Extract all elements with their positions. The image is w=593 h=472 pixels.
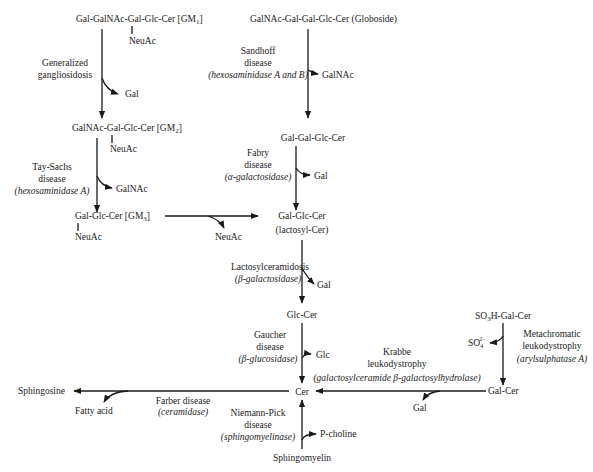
release-arrow — [302, 434, 316, 440]
svg-text:(hexosaminidase A and B): (hexosaminidase A and B) — [208, 70, 308, 81]
disease-niemann-pick: Niemann-Pick disease (sphingomyelinase) — [221, 408, 295, 443]
svg-text:disease: disease — [244, 420, 271, 430]
svg-text:Gal-Glc-Cer [GM3]: Gal-Glc-Cer [GM3] — [75, 211, 150, 223]
compound-gm2: GalNAc-Gal-Glc-Cer [GM2] NeuAc — [72, 123, 182, 154]
svg-text:(galactosylceramide β-galactos: (galactosylceramide β-galactosylhydrolas… — [313, 373, 480, 384]
product-gal: Gal — [413, 403, 427, 413]
svg-text:Gal-Glc-Cer: Gal-Glc-Cer — [278, 211, 326, 221]
svg-text:Niemann-Pick: Niemann-Pick — [231, 408, 286, 418]
release-arrow — [302, 354, 311, 358]
release-arrow — [208, 216, 224, 228]
release-arrow — [296, 168, 310, 175]
svg-text:disease: disease — [38, 174, 65, 184]
disease-fabry: Fabry disease (α-galactosidase) — [225, 148, 292, 183]
product-galnac: GalNAc — [116, 184, 148, 194]
svg-text:disease: disease — [244, 58, 271, 68]
svg-text:Gaucher: Gaucher — [254, 330, 287, 340]
product-glc: Glc — [316, 350, 330, 360]
neuac-branch: NeuAc — [110, 144, 137, 154]
disease-lactosylceramidosis: Lactosylceramidosis (β-galactosidase) — [231, 262, 309, 285]
release-arrow — [423, 391, 440, 400]
svg-text:Farber disease: Farber disease — [156, 396, 211, 406]
release-arrow — [104, 391, 128, 402]
compound-sulfatide: SO3H-Gal-Cer — [475, 311, 532, 323]
product-gal: Gal — [314, 171, 328, 181]
svg-text:leukodystrophy: leukodystrophy — [522, 341, 581, 351]
svg-text:(α-galactosidase): (α-galactosidase) — [225, 172, 292, 183]
svg-text:Gal-GalNAc-Gal-Glc-Cer [GM1]: Gal-GalNAc-Gal-Glc-Cer [GM1] — [76, 14, 203, 26]
svg-text:gangliosidosis: gangliosidosis — [38, 70, 93, 80]
release-arrow — [97, 176, 112, 188]
compound-trihexosylceramide: Gal-Gal-Glc-Cer — [281, 133, 346, 143]
svg-text:(β-galactosidase): (β-galactosidase) — [235, 274, 301, 285]
svg-text:(arylsulphatase A): (arylsulphatase A) — [517, 354, 587, 365]
svg-text:disease: disease — [244, 160, 271, 170]
disease-gaucher: Gaucher disease (β-glucosidase) — [238, 330, 297, 365]
product-galnac: GalNAc — [322, 70, 354, 80]
svg-text:disease: disease — [256, 342, 283, 352]
compound-gm3: Gal-Glc-Cer [GM3] NeuAc — [75, 211, 150, 242]
svg-text:(sphingomyelinase): (sphingomyelinase) — [221, 432, 295, 443]
compound-glucosylceramide: Glc-Cer — [287, 310, 318, 320]
product-gal: Gal — [317, 280, 331, 290]
neuac-branch: NeuAc — [75, 232, 102, 242]
release-arrow — [490, 336, 503, 343]
compound-galactosylceramide: Gal-Cer — [488, 386, 519, 396]
svg-text:(ceramidase): (ceramidase) — [158, 407, 208, 418]
product-fatty-acid: Fatty acid — [75, 406, 113, 416]
svg-text:Fabry: Fabry — [247, 148, 269, 158]
release-arrow — [308, 70, 318, 74]
svg-text:Lactosylceramidosis: Lactosylceramidosis — [231, 262, 309, 272]
svg-text:(hexosaminidase A): (hexosaminidase A) — [14, 186, 89, 197]
product-neuac: NeuAc — [215, 232, 242, 242]
compound-sphingosine: Sphingosine — [18, 386, 65, 396]
product-p-choline: P-choline — [320, 429, 356, 439]
svg-text:Sandhoff: Sandhoff — [241, 46, 276, 56]
svg-text:leukodystrophy: leukodystrophy — [367, 359, 426, 369]
svg-text:Krabbe: Krabbe — [383, 347, 411, 357]
release-arrow — [102, 78, 118, 94]
svg-text:Generalized: Generalized — [42, 58, 88, 68]
compound-globoside: GalNAc-Gal-Gal-Glc-Cer (Globoside) — [250, 14, 397, 25]
compound-sphingomyelin: Sphingomyelin — [273, 453, 331, 463]
disease-sandhoff: Sandhoff disease (hexosaminidase A and B… — [208, 46, 308, 81]
compound-gm1: Gal-GalNAc-Gal-Glc-Cer [GM1] NeuAc — [76, 14, 203, 46]
sphingolipid-pathway-diagram: Gal-GalNAc-Gal-Glc-Cer [GM1] NeuAc Gal G… — [0, 0, 593, 472]
svg-text:(β-glucosidase): (β-glucosidase) — [238, 354, 297, 365]
disease-generalized-gangliosidosis: Generalized gangliosidosis — [38, 58, 93, 80]
compound-ceramide: Cer — [295, 387, 310, 397]
disease-tay-sachs: Tay-Sachs disease (hexosaminidase A) — [14, 162, 89, 197]
svg-text:Metachromatic: Metachromatic — [523, 329, 581, 339]
product-sulfate: SO42− — [468, 336, 486, 349]
disease-krabbe-leukodystrophy: Krabbe leukodystrophy (galactosylceramid… — [313, 347, 480, 384]
svg-text:(lactosyl-Cer): (lactosyl-Cer) — [276, 225, 329, 236]
svg-text:GalNAc-Gal-Glc-Cer [GM2]: GalNAc-Gal-Glc-Cer [GM2] — [72, 123, 182, 135]
compound-lactosylceramide: Gal-Glc-Cer (lactosyl-Cer) — [276, 211, 329, 236]
disease-farber: Farber disease (ceramidase) — [156, 396, 211, 418]
disease-metachromatic-leukodystrophy: Metachromatic leukodystrophy (arylsulpha… — [517, 329, 587, 365]
svg-text:Tay-Sachs: Tay-Sachs — [32, 162, 72, 172]
neuac-branch: NeuAc — [129, 36, 156, 46]
product-gal: Gal — [125, 89, 139, 99]
